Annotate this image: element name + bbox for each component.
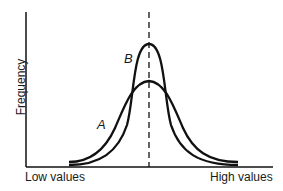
x-axis-high-label: High values (210, 170, 273, 184)
curve-a-label: A (97, 117, 106, 132)
curve-b-label: B (124, 51, 133, 66)
distribution-chart (0, 0, 283, 191)
x-axis-low-label: Low values (25, 170, 85, 184)
curve-a (69, 81, 238, 162)
curve-b (69, 44, 238, 165)
y-axis-label: Frequency (14, 52, 28, 122)
